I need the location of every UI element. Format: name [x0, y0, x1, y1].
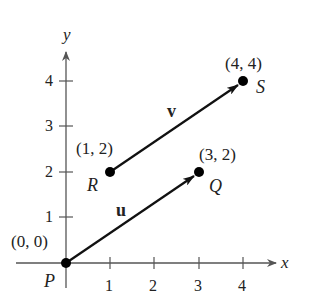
x-tick-label: 3 — [194, 277, 202, 294]
coordinate-plane: 1 2 3 4 1 2 3 4 x y u v P Q R S (0, 0) (… — [0, 0, 309, 307]
x-tick-label: 1 — [105, 277, 113, 294]
vector-v-label: v — [167, 101, 176, 121]
vector-u-label: u — [116, 200, 126, 220]
point-q-coords: (3, 2) — [199, 145, 236, 164]
point-p-name: P — [43, 271, 55, 291]
y-tick-label: 1 — [45, 208, 53, 225]
x-tick-label: 4 — [238, 277, 246, 294]
y-tick-label: 2 — [45, 163, 53, 180]
point-p-coords: (0, 0) — [11, 232, 48, 251]
point-s — [238, 76, 248, 86]
y-tick-label: 3 — [45, 117, 53, 134]
point-q — [194, 167, 204, 177]
point-r-coords: (1, 2) — [76, 139, 113, 158]
x-tick-label: 2 — [149, 277, 157, 294]
vector-diagram: 1 2 3 4 1 2 3 4 x y u v P Q R S (0, 0) (… — [0, 0, 309, 307]
point-s-coords: (4, 4) — [225, 54, 262, 73]
vector-u — [66, 176, 194, 263]
point-r — [105, 167, 115, 177]
y-tick-label: 4 — [45, 72, 53, 89]
point-p — [61, 258, 71, 268]
point-s-name: S — [256, 77, 265, 97]
point-q-name: Q — [209, 176, 222, 196]
point-r-name: R — [86, 175, 98, 195]
y-axis-label: y — [61, 25, 71, 44]
x-axis-label: x — [280, 253, 289, 272]
